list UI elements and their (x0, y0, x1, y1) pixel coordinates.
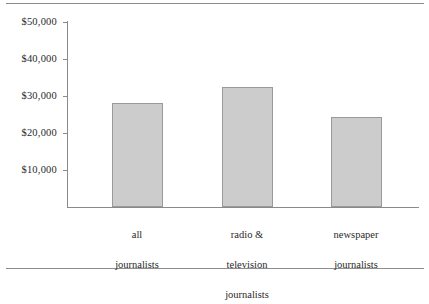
category-label-line: journalists (306, 257, 406, 272)
y-tick-label-40000: $40,000 (0, 54, 57, 65)
category-label-line: television (197, 257, 297, 272)
y-tick-label-20000: $20,000 (0, 128, 57, 139)
y-tick-mark-50000 (63, 22, 68, 23)
y-tick-mark-40000 (63, 59, 68, 60)
category-label-newspaper-journalists: newspaper journalists (306, 212, 406, 287)
y-tick-label-10000: $10,000 (0, 165, 57, 176)
category-label-all-journalists: all journalists (87, 212, 187, 287)
category-label-line: all (87, 227, 187, 242)
y-tick-mark-30000 (63, 96, 68, 97)
y-tick-mark-10000 (63, 170, 68, 171)
category-label-radio-television-journalists: radio & television journalists (197, 212, 297, 304)
y-axis-line (67, 21, 68, 208)
bar-newspaper-journalists (331, 117, 382, 207)
y-tick-mark-20000 (63, 133, 68, 134)
category-label-line: newspaper (306, 227, 406, 242)
y-tick-label-50000: $50,000 (0, 17, 57, 28)
x-axis-line (67, 207, 419, 208)
category-label-line: journalists (87, 257, 187, 272)
y-tick-label-30000: $30,000 (0, 91, 57, 102)
category-label-line: journalists (197, 287, 297, 302)
bar-all-journalists (112, 103, 163, 207)
category-label-line: radio & (197, 227, 297, 242)
bar-radio-television-journalists (222, 87, 273, 207)
